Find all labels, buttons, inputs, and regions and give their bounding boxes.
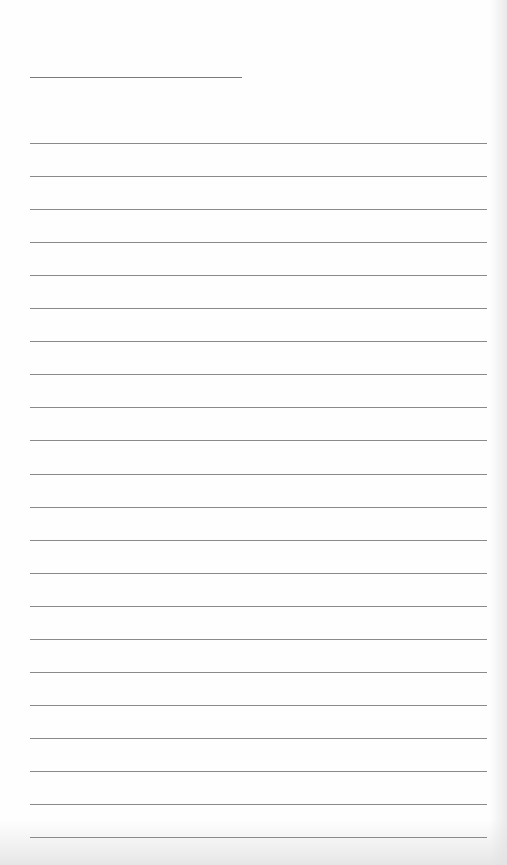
ruled-line <box>30 837 487 838</box>
title-line <box>30 77 242 78</box>
ruled-line <box>30 804 487 805</box>
ruled-line <box>30 573 487 574</box>
ruled-line <box>30 771 487 772</box>
ruled-line <box>30 275 487 276</box>
ruled-line <box>30 540 487 541</box>
ruled-line <box>30 242 487 243</box>
ruled-line <box>30 474 487 475</box>
ruled-line <box>30 374 487 375</box>
ruled-line <box>30 440 487 441</box>
ruled-line <box>30 341 487 342</box>
ruled-line <box>30 639 487 640</box>
ruled-line <box>30 176 487 177</box>
ruled-line <box>30 705 487 706</box>
ruled-line <box>30 672 487 673</box>
ruled-line <box>30 606 487 607</box>
ruled-line <box>30 738 487 739</box>
ruled-line <box>30 308 487 309</box>
ruled-line <box>30 209 487 210</box>
notepad-page <box>0 0 507 865</box>
ruled-line <box>30 143 487 144</box>
ruled-line <box>30 407 487 408</box>
ruled-line <box>30 507 487 508</box>
